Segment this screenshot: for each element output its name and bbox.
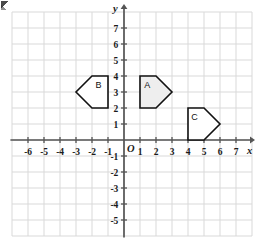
y-axis-name-label: y [111, 3, 118, 14]
origin-label: O [127, 143, 135, 154]
y-tick-label: 6 [113, 40, 118, 50]
x-tick-label: 1 [138, 147, 143, 157]
x-tick-label: -6 [24, 147, 32, 157]
axis-lines [10, 4, 255, 238]
x-tick-label: 3 [170, 147, 175, 157]
x-tick-label: -5 [40, 147, 48, 157]
y-tick-label: -5 [110, 216, 118, 226]
shape-label-c: C [191, 112, 198, 122]
shape-label-b: B [95, 80, 101, 90]
x-axis-name-label: x [246, 145, 252, 156]
y-tick-label: -2 [110, 168, 118, 178]
polygon-shape-b [76, 76, 108, 108]
x-tick-label: 2 [154, 147, 159, 157]
y-tick-label: -1 [110, 152, 118, 162]
x-tick-label: -3 [72, 147, 80, 157]
y-tick-label: 5 [113, 56, 118, 66]
axis-names: yx [111, 3, 252, 156]
x-tick-label: -4 [56, 147, 64, 157]
y-tick-label: 7 [113, 24, 118, 34]
x-tick-label: 7 [234, 147, 239, 157]
y-tick-label: 3 [113, 88, 118, 98]
x-tick-label: 6 [218, 147, 223, 157]
y-axis-arrow-icon [121, 4, 128, 9]
y-tick-label: 1 [113, 120, 118, 130]
x-tick-label: 4 [186, 147, 191, 157]
y-tick-label: -4 [110, 200, 118, 210]
y-tick-label: 4 [113, 72, 118, 82]
y-tick-label: 2 [113, 104, 118, 114]
y-tick-label: -3 [110, 184, 118, 194]
coordinate-plane-figure: -6-5-4-3-2-112345677654321-1-2-3-4-5O AB… [0, 0, 255, 245]
shape-label-a: A [144, 80, 150, 90]
x-tick-label: -2 [88, 147, 96, 157]
coordinate-grid-canvas: -6-5-4-3-2-112345677654321-1-2-3-4-5O AB… [0, 0, 255, 245]
x-tick-label: 5 [202, 147, 207, 157]
